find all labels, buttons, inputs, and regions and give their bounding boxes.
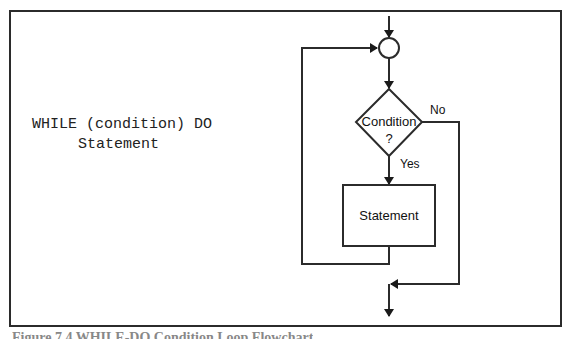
junction-node: [379, 38, 399, 58]
yes-label: Yes: [400, 157, 420, 171]
decision-question-mark: ?: [385, 131, 392, 146]
figure-caption: Figure 7.4 WHILE-DO Condition Loop Flowc…: [12, 330, 313, 339]
no-label: No: [430, 103, 446, 117]
while-loop-flowchart: Condition ? Yes No Statement: [0, 0, 571, 339]
decision-label: Condition: [362, 114, 417, 129]
statement-label: Statement: [359, 208, 419, 223]
